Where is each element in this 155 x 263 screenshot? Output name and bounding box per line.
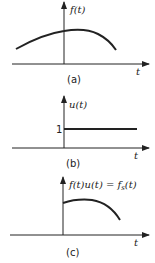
- caption-c: (c): [66, 247, 79, 258]
- curve-fs-c: [63, 200, 120, 220]
- panel-b: 1 u(t) t (b): [12, 96, 149, 169]
- xlabel-b: t: [134, 150, 139, 161]
- panel-c: f(t)u(t) = fs(t) t (c): [10, 177, 149, 258]
- signal-diagram: f(t) t (a) 1 u(t) t (b) f(t)u(t) = fs(t)…: [0, 0, 155, 263]
- tick-label-1: 1: [56, 124, 62, 135]
- ylabel-a: f(t): [69, 4, 86, 15]
- curve-f-a: [16, 30, 116, 50]
- ylabel-c: f(t)u(t) = fs(t): [68, 179, 137, 192]
- caption-b: (b): [66, 158, 80, 169]
- panel-a: f(t) t (a): [12, 2, 149, 85]
- xlabel-c: t: [134, 237, 139, 248]
- xlabel-a: t: [136, 66, 141, 77]
- ylabel-b: u(t): [69, 99, 87, 110]
- caption-a: (a): [67, 74, 81, 85]
